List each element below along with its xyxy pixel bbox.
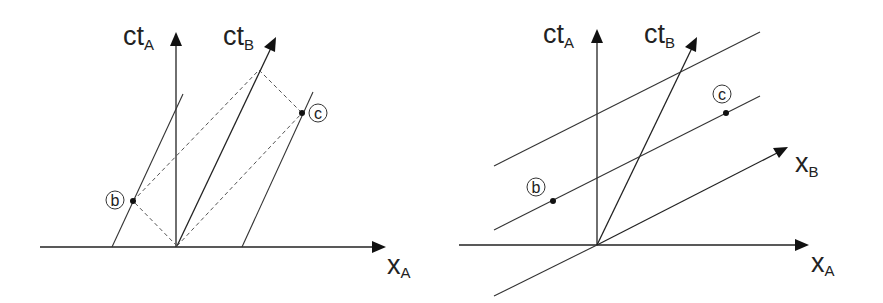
simultaneity-line-bottom bbox=[494, 245, 597, 296]
x-a-arrowhead-icon-right bbox=[795, 239, 809, 251]
ct-b-label: ctB bbox=[223, 21, 254, 53]
x-a-label-right: xA bbox=[811, 248, 835, 279]
worldline-b bbox=[112, 94, 183, 247]
dashed-top-c bbox=[259, 70, 302, 113]
x-a-arrowhead-icon bbox=[372, 241, 386, 253]
event-b-label-right: b bbox=[532, 179, 541, 196]
ct-a-arrowhead-icon bbox=[170, 32, 182, 46]
event-c-dot bbox=[299, 110, 305, 116]
event-b-label: b bbox=[111, 192, 120, 209]
ct-b-label-right: ctB bbox=[644, 19, 675, 51]
dashed-b-top bbox=[133, 70, 259, 201]
ct-a-label-right: ctA bbox=[543, 19, 574, 51]
event-b-dot bbox=[130, 198, 136, 204]
event-c-label: c bbox=[314, 105, 322, 122]
spacetime-diagrams: b c ctA ctB xA b c ctA ctB xB bbox=[0, 0, 883, 303]
left-panel: b c ctA ctB xA bbox=[40, 21, 411, 281]
right-panel: b c ctA ctB xB xA bbox=[459, 19, 835, 296]
dashed-origin-b bbox=[133, 201, 177, 246]
ct-a-label: ctA bbox=[123, 21, 154, 53]
ct-b-axis-right bbox=[597, 48, 692, 245]
event-b-dot-right bbox=[550, 198, 556, 204]
x-b-arrowhead-icon bbox=[773, 147, 788, 158]
ct-b-axis bbox=[177, 48, 271, 246]
x-b-label: xB bbox=[795, 148, 819, 180]
dashed-origin-c bbox=[177, 113, 302, 246]
event-c-dot-right bbox=[723, 110, 729, 116]
x-b-axis bbox=[597, 153, 777, 245]
event-c-label-right: c bbox=[718, 86, 726, 103]
simultaneity-line-middle bbox=[494, 96, 760, 230]
x-a-label: xA bbox=[387, 250, 411, 281]
ct-a-arrowhead-icon-right bbox=[591, 29, 603, 43]
